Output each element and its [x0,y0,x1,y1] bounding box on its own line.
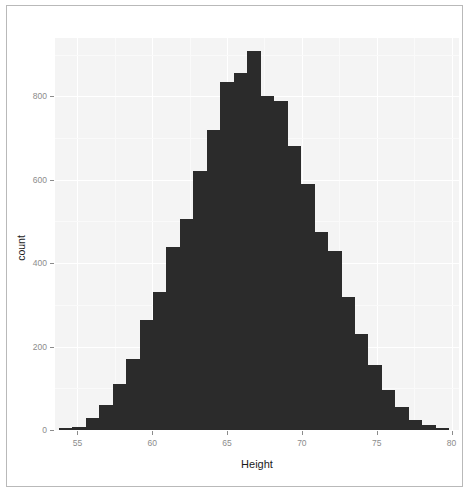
histogram-bar [288,146,301,430]
y-axis-title: count [15,235,27,261]
histogram-plot: 0200400600800 556065707580 count Height [0,0,469,496]
histogram-bar [395,407,408,430]
histogram-bar [328,251,341,430]
y-tick-mark [50,180,54,181]
y-tick-mark [50,263,54,264]
histogram-bar [220,82,233,430]
histogram-bar [422,425,435,430]
y-tick-label: 200 [33,343,47,352]
histogram-bar [301,184,314,430]
histogram-bar [72,427,85,430]
x-tick-label: 70 [282,439,322,448]
histogram-bar [436,428,449,431]
histogram-bar [355,334,368,430]
plot-panel [55,38,459,430]
histogram-bar [99,405,112,430]
x-tick-mark [377,431,378,435]
x-tick-mark [302,431,303,435]
histogram-bar [409,420,422,430]
histogram-bar [207,130,220,430]
histogram-bar [113,384,126,430]
y-tick-label: 400 [33,259,47,268]
histogram-bar [247,51,260,430]
y-tick-mark [50,347,54,348]
x-tick-mark [152,431,153,435]
x-tick-mark [452,431,453,435]
y-tick-label: 600 [33,176,47,185]
histogram-bar [382,390,395,430]
x-tick-label: 65 [207,439,247,448]
histogram-bar [193,171,206,430]
x-tick-label: 60 [132,439,172,448]
y-tick-mark [50,430,54,431]
histogram-bar [140,320,153,431]
x-tick-mark [227,431,228,435]
histogram-bar [315,232,328,430]
histogram-bar [180,219,193,430]
x-axis-title: Height [55,458,459,470]
histogram-bar [274,101,287,430]
histogram-bar [153,292,166,430]
histogram-bar [86,418,99,431]
histogram-bar [234,73,247,430]
histogram-bar [261,96,274,430]
histogram-bar [166,247,179,430]
y-tick-mark [50,96,54,97]
histogram-bar [368,365,381,430]
histogram-bar [59,428,72,430]
x-tick-label: 75 [357,439,397,448]
x-tick-label: 80 [432,439,469,448]
x-tick-mark [77,431,78,435]
histogram-bar [342,297,355,430]
y-tick-label: 0 [42,426,47,435]
histogram-bar [126,359,139,430]
y-tick-label: 800 [33,92,47,101]
x-tick-label: 55 [57,439,97,448]
